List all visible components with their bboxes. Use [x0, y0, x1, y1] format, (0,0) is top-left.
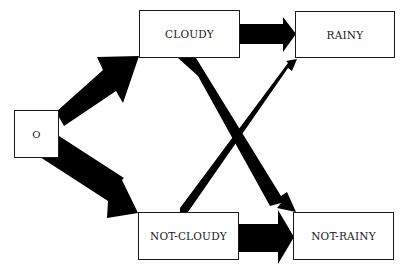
node-not-cloudy: NOT-CLOUDY: [138, 212, 239, 260]
arrow-not-cloudy-to-rainy: [180, 59, 297, 212]
arrow-not-cloudy-to-not-rainy: [238, 210, 294, 264]
node-not-rainy: NOT-RAINY: [293, 212, 394, 260]
arrow-cloudy-to-rainy: [240, 17, 296, 52]
node-rainy: RAINY: [295, 11, 395, 58]
node-not-rainy-label: NOT-RAINY: [311, 230, 376, 242]
node-cloudy: CLOUDY: [139, 10, 240, 58]
node-o-label: O: [32, 129, 40, 140]
node-o: O: [14, 110, 59, 158]
arrow-o-to-cloudy: [56, 56, 139, 126]
node-cloudy-label: CLOUDY: [165, 28, 214, 40]
node-not-cloudy-label: NOT-CLOUDY: [150, 230, 227, 242]
node-rainy-label: RAINY: [327, 29, 364, 41]
